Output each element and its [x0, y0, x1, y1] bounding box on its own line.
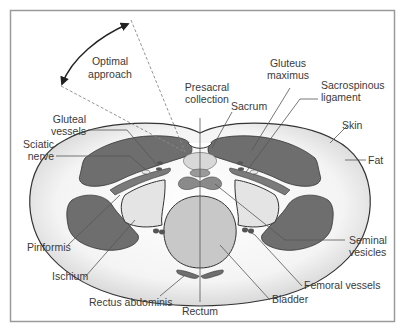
label-seminal-2: vesicles [349, 246, 386, 258]
label-optimal-approach-2: approach [88, 68, 132, 80]
gluteal-vessel-right-1 [237, 161, 243, 165]
label-presacral-2: collection [185, 93, 229, 105]
femoral-vessel-left-2 [159, 230, 165, 235]
sciatic-nerve-left [142, 170, 150, 174]
label-rectum: Rectum [182, 305, 218, 317]
label-sacrum: Sacrum [231, 100, 267, 112]
femoral-vessel-left-1 [153, 229, 159, 234]
sciatic-nerve-right [250, 170, 258, 174]
label-sacrospinous-2: ligament [321, 91, 361, 103]
label-fat: Fat [368, 154, 383, 166]
label-sciatic-1: Sciatic [23, 138, 54, 150]
gluteal-vessel-right-2 [238, 167, 244, 171]
label-seminal-1: Seminal [349, 234, 387, 246]
label-gluteal-2: vessels [51, 125, 86, 137]
label-optimal-approach-1: Optimal [92, 55, 128, 67]
pelvis-cross-section-diagram: Optimal approach Presacral collection Sa… [0, 0, 403, 332]
label-skin: Skin [342, 119, 363, 131]
label-sacrospinous-1: Sacrospinous [321, 79, 385, 91]
label-gluteus-2: maximus [267, 69, 309, 81]
label-piriformis: Piriformis [27, 241, 71, 253]
label-presacral-1: Presacral [185, 81, 229, 93]
label-rectus-abdominis: Rectus abdominis [89, 296, 172, 308]
label-bladder: Bladder [272, 293, 309, 305]
label-femoral-vessels: Femoral vessels [304, 279, 380, 291]
gluteal-vessel-left-1 [157, 161, 163, 165]
label-ischium: Ischium [52, 270, 88, 282]
label-gluteus-1: Gluteus [270, 57, 306, 69]
label-gluteal-1: Gluteal [53, 113, 86, 125]
gluteal-vessel-left-2 [156, 167, 162, 171]
femoral-vessel-right-1 [242, 228, 248, 233]
label-sciatic-2: nerve [28, 150, 54, 162]
